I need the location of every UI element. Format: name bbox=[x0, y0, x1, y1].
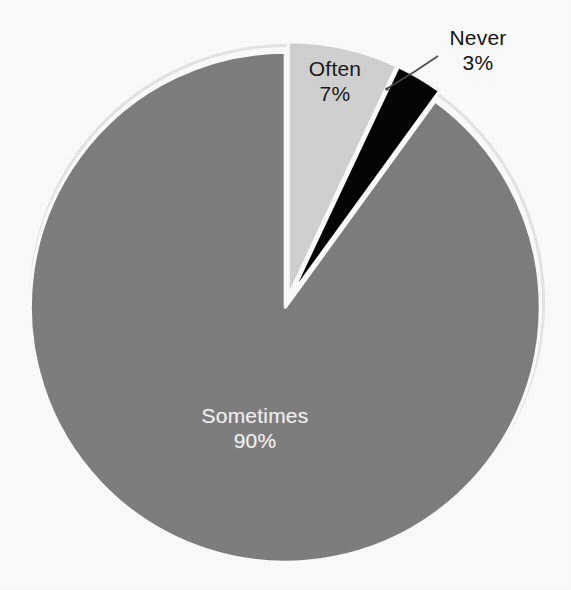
slice-label-often-name: Often bbox=[289, 57, 381, 82]
slice-label-often: Often 7% bbox=[289, 57, 381, 107]
slice-label-sometimes-name: Sometimes bbox=[157, 404, 353, 429]
slice-label-sometimes-value: 90% bbox=[157, 429, 353, 454]
slice-label-sometimes: Sometimes 90% bbox=[157, 404, 353, 454]
pie-chart-graphic bbox=[0, 0, 571, 590]
pie-slice-sometimes[interactable] bbox=[30, 52, 540, 562]
never-leader-dot bbox=[385, 87, 389, 91]
slice-label-often-value: 7% bbox=[289, 82, 381, 107]
slice-label-never-value: 3% bbox=[424, 51, 532, 76]
pie-chart-page: Often 7% Never 3% Sometimes 90% bbox=[0, 0, 571, 590]
slice-label-never: Never 3% bbox=[424, 26, 532, 76]
slice-label-never-name: Never bbox=[424, 26, 532, 51]
